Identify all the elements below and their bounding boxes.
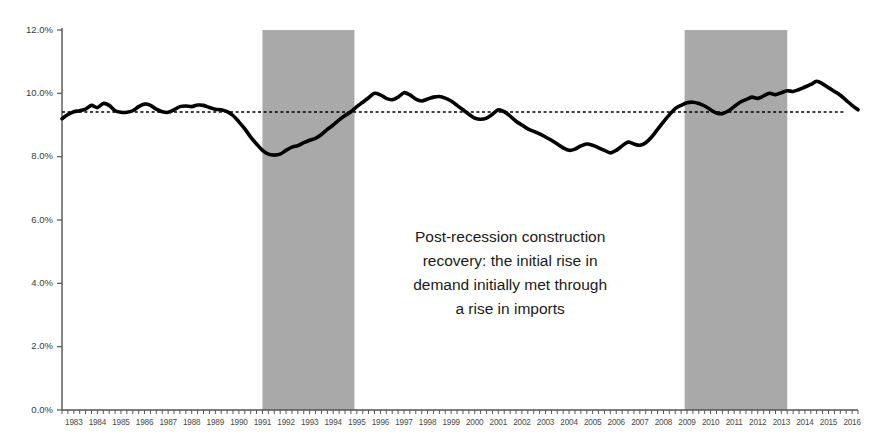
x-axis-tick-label: 1995 (348, 418, 366, 427)
x-axis-tick-label: 1998 (419, 418, 437, 427)
x-axis-tick-label: 2005 (584, 418, 602, 427)
y-axis-tick-label: 8.0% (31, 150, 53, 161)
x-axis-tick-label: 2000 (466, 418, 484, 427)
recession-band-2 (685, 30, 788, 410)
x-axis-tick-label: 2012 (749, 418, 767, 427)
x-axis-tick-label: 1985 (112, 418, 130, 427)
y-axis-tick-label: 2.0% (31, 340, 53, 351)
x-axis-tick-label: 1990 (230, 418, 248, 427)
annotation-line: demand initially met through (413, 276, 607, 293)
annotation-line: Post-recession construction (415, 228, 605, 245)
x-axis-tick-label: 1986 (136, 418, 154, 427)
x-axis-tick-label: 2001 (490, 418, 508, 427)
x-axis-tick-label: 2013 (773, 418, 791, 427)
x-axis-tick-label: 1987 (159, 418, 177, 427)
x-axis-tick-label: 2009 (678, 418, 696, 427)
x-axis-tick-label: 1989 (207, 418, 225, 427)
x-axis-tick-label: 1994 (325, 418, 343, 427)
x-axis-tick-label: 2008 (655, 418, 673, 427)
recession-band-1 (262, 30, 354, 410)
x-axis-tick-label: 1999 (442, 418, 460, 427)
y-axis-tick-label: 4.0% (31, 277, 53, 288)
x-axis-tick-label: 2002 (513, 418, 531, 427)
x-axis-tick-label: 1984 (89, 418, 107, 427)
x-axis-tick-label: 2014 (796, 418, 814, 427)
annotation-line: a rise in imports (455, 300, 565, 317)
x-axis-tick-label: 1993 (301, 418, 319, 427)
x-axis-tick-label: 2011 (726, 418, 743, 427)
x-axis-tick-label: 1991 (254, 418, 272, 427)
x-axis-tick-label: 2015 (820, 418, 838, 427)
y-axis-tick-label: 12.0% (26, 24, 53, 35)
x-axis-tick-label: 2010 (702, 418, 720, 427)
x-axis-tick-label: 2016 (843, 418, 861, 427)
x-axis-tick-label: 1996 (372, 418, 390, 427)
x-axis-tick-label: 2003 (537, 418, 555, 427)
chart-container: 0.0%2.0%4.0%6.0%8.0%10.0%12.0% 198319841… (0, 0, 882, 447)
x-axis-tick-label: 1992 (277, 418, 295, 427)
x-axis-tick-label: 2007 (631, 418, 649, 427)
x-axis-tick-label: 2006 (608, 418, 626, 427)
x-axis-tick-label: 1983 (65, 418, 83, 427)
x-axis-tick-label: 1997 (395, 418, 413, 427)
x-axis-tick-label: 1988 (183, 418, 201, 427)
y-axis-tick-label: 6.0% (31, 214, 53, 225)
y-axis-tick-label: 0.0% (31, 404, 53, 415)
x-axis-tick-label: 2004 (560, 418, 578, 427)
line-chart: 0.0%2.0%4.0%6.0%8.0%10.0%12.0% 198319841… (0, 0, 882, 447)
annotation-line: recovery: the initial rise in (423, 252, 598, 269)
y-axis-tick-label: 10.0% (26, 87, 53, 98)
